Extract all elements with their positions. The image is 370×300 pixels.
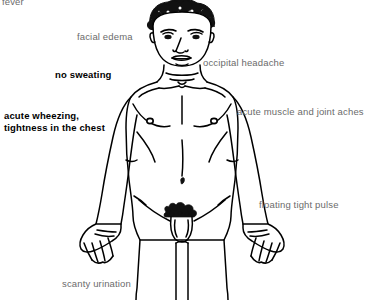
finger-tips-left bbox=[92, 256, 113, 263]
symptom-label-occipital-headache: occipital headache bbox=[203, 57, 284, 69]
mouth-line bbox=[172, 58, 191, 59]
symptom-label-acute-muscle-and-joint-aches: acute muscle and joint aches bbox=[237, 106, 364, 118]
elbow-crease-right bbox=[227, 160, 238, 162]
clavicle-center-left bbox=[159, 86, 179, 88]
clavicle-right bbox=[205, 88, 225, 97]
arm-inner-left bbox=[121, 115, 137, 224]
clavicle-left bbox=[139, 88, 159, 97]
rib-line-right bbox=[209, 132, 227, 162]
genitalia-shade-left bbox=[175, 220, 177, 237]
sternum-notch bbox=[179, 86, 185, 88]
neck-left bbox=[157, 65, 164, 82]
hip-crease-right bbox=[218, 196, 230, 205]
rib-line-left bbox=[137, 132, 155, 162]
symptom-label-scanty-urination: scanty urination bbox=[62, 278, 131, 290]
navel bbox=[181, 178, 185, 184]
clavicle-center-right bbox=[185, 86, 205, 88]
symptom-label-no-sweating: no sweating bbox=[55, 69, 112, 81]
abdomen-midline bbox=[182, 140, 183, 176]
genitalia bbox=[171, 217, 193, 242]
hip-crease-left bbox=[134, 196, 146, 205]
crotch-line bbox=[176, 242, 188, 244]
symptom-label-acute-wheezing-tightness-in-the-chest: acute wheezing, tightness in the chest bbox=[4, 110, 105, 133]
leg-outer-left bbox=[136, 240, 140, 300]
symptom-label-facial-edema: facial edema bbox=[77, 31, 133, 43]
throat-notch bbox=[178, 82, 186, 84]
finger-tips-right bbox=[251, 256, 272, 263]
body-figure-illustration bbox=[0, 0, 370, 300]
symptom-label-floating-tight-pulse: floating tight pulse bbox=[259, 199, 339, 211]
genitalia-shade-right bbox=[186, 220, 188, 237]
pubic-hair-icon bbox=[164, 202, 197, 217]
neck-crease-1 bbox=[166, 73, 198, 75]
arm-inner-right bbox=[227, 115, 243, 224]
leg-outer-right bbox=[224, 240, 228, 300]
elbow-crease-left bbox=[126, 160, 137, 162]
symptom-diagram-page: feverfacial edemaoccipital headacheno sw… bbox=[0, 0, 370, 300]
symptom-label-fever: fever bbox=[2, 0, 24, 8]
neck-crease-2 bbox=[170, 79, 194, 81]
